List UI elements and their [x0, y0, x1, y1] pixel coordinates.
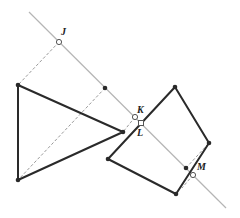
vertex-point [16, 178, 21, 183]
label-m: M [196, 161, 207, 172]
vertex-point [184, 166, 189, 171]
label-k: K [136, 104, 145, 115]
geometry-diagram: JKLM [0, 0, 240, 218]
polygons [18, 85, 209, 194]
dashed-line [18, 42, 59, 85]
point-m-marker [190, 172, 195, 177]
vertex-point [207, 141, 212, 146]
vertex-point [174, 192, 179, 197]
vertex-point [106, 157, 111, 162]
vertex-point [121, 130, 126, 135]
dashed-line [18, 88, 105, 180]
label-l: L [136, 127, 143, 138]
vertex-point [173, 85, 178, 90]
point-k-marker [132, 114, 137, 119]
points [16, 39, 212, 196]
triangle [18, 85, 123, 180]
point-l-marker [139, 121, 144, 126]
vertex-point [16, 83, 21, 88]
point-j-marker [56, 39, 61, 44]
label-j: J [60, 26, 67, 37]
vertex-point [103, 86, 108, 91]
